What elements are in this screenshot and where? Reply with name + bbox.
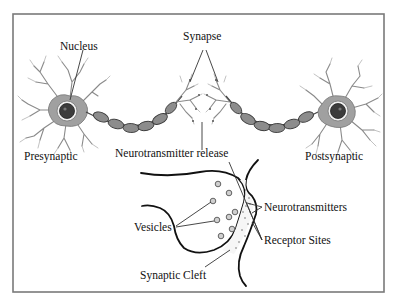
label-nucleus: Nucleus	[60, 40, 98, 52]
label-postsynaptic: Postsynaptic	[305, 150, 363, 163]
nucleus-icon	[60, 104, 75, 119]
label-presynaptic: Presynaptic	[24, 150, 78, 163]
label-vesicles: Vesicles	[134, 221, 172, 233]
postsynaptic-nucleus-icon	[331, 104, 346, 119]
diagram-canvas: Nucleus Synapse Presynaptic Postsynaptic…	[0, 0, 395, 305]
label-receptor-sites: Receptor Sites	[264, 234, 331, 247]
label-synapse: Synapse	[183, 30, 221, 43]
label-synaptic-cleft: Synaptic Cleft	[140, 269, 207, 282]
label-neurotransmitter-release: Neurotransmitter release	[115, 147, 228, 159]
label-neurotransmitters: Neurotransmitters	[264, 201, 348, 213]
